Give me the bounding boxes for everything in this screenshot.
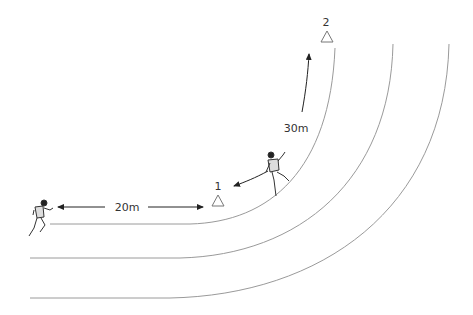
track-lanes <box>30 44 449 298</box>
runner-curve-icon <box>266 152 289 196</box>
lane-line-inner <box>50 48 335 224</box>
distance-30m-label: 30m <box>284 122 309 135</box>
cone-1: 1 <box>212 180 224 206</box>
cone-icon <box>321 31 333 42</box>
arrow-down-left-icon <box>234 171 268 186</box>
arrow-up-icon <box>302 54 309 112</box>
cone-2-label: 2 <box>323 16 330 29</box>
cone-1-label: 1 <box>215 180 222 193</box>
cone-2: 2 <box>321 16 333 42</box>
cone-icon <box>212 195 224 206</box>
running-drill-diagram: 1 2 20m 30m <box>0 0 473 315</box>
lane-line-middle <box>30 44 393 258</box>
lane-line-outer <box>30 44 449 298</box>
runner-start-icon <box>29 200 53 236</box>
distance-20m-label: 20m <box>115 201 140 214</box>
